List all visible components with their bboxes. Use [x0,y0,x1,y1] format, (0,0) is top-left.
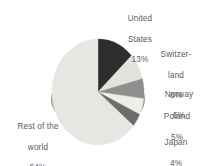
pie-label-poland-line1: Poland [153,112,201,122]
pie-label-japan-line1: Japan [152,138,200,148]
pie-label-rest-of-world: Rest of the world 64% [2,112,74,166]
pie-label-norway-line1: Norway [155,90,203,100]
pie-label-japan: Japan 4% [152,128,200,166]
pie-label-rest-of-world-line2: world [2,143,74,153]
pie-label-united-states-line1: United [112,14,168,24]
pie-label-japan-value: 4% [152,159,200,166]
pie-chart: United States 13% Switzer- land 8% Norwa… [0,0,205,166]
pie-label-rest-of-world-line1: Rest of the [2,122,74,132]
pie-label-rest-of-world-value: 64% [2,163,74,166]
pie-label-switzerland-line1: Switzer- [150,50,202,60]
